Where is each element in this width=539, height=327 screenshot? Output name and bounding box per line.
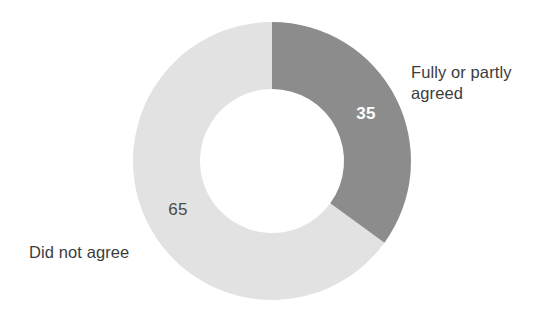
donut-slice-fully-or-partly-agreed[interactable]: [272, 22, 411, 243]
slice-label-fully-or-partly-agreed: Fully or partly agreed: [411, 62, 539, 104]
slice-value-fully-or-partly-agreed: 35: [356, 105, 375, 122]
slice-label-did-not-agree: Did not agree: [29, 242, 169, 263]
donut-chart: 35 65 Fully or partly agreed Did not agr…: [0, 0, 539, 327]
slice-value-did-not-agree: 65: [168, 200, 187, 217]
donut-chart-svg: [0, 0, 539, 327]
